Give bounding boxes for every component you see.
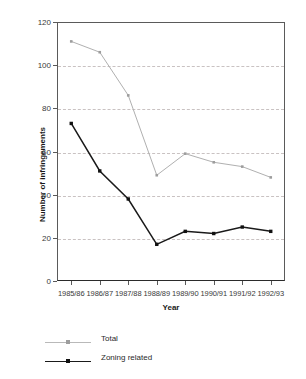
x-axis-tick-mark <box>128 281 129 285</box>
x-axis-tick-label: 1992/93 <box>258 289 284 298</box>
legend-swatch-zoning-related <box>45 358 91 366</box>
chart-legend: Total Zoning related <box>45 332 245 370</box>
line-chart-figure: 020406080100120 1985/861986/871987/88198… <box>0 0 306 379</box>
x-axis-tick-label: 1990/91 <box>201 289 227 298</box>
x-axis-tick-label: 1991/92 <box>229 289 255 298</box>
x-axis-tick-mark <box>157 281 158 285</box>
x-axis-tick-mark <box>71 281 72 285</box>
x-axis-tick-label: 1985/86 <box>58 289 84 298</box>
legend-item-total: Total <box>45 332 245 351</box>
x-axis-tick-mark <box>100 281 101 285</box>
x-axis-tick-label: 1988/89 <box>144 289 170 298</box>
legend-label-zoning-related: Zoning related <box>101 353 152 362</box>
x-axis-tick-mark <box>271 281 272 285</box>
legend-label-total: Total <box>101 334 118 343</box>
y-axis-title: Number of infringements <box>38 95 47 255</box>
y-axis-title-holder: Number of infringements <box>22 70 32 230</box>
legend-marker-zoning-related <box>66 359 70 363</box>
legend-marker-total <box>66 340 70 344</box>
legend-item-zoning-related: Zoning related <box>45 351 245 370</box>
x-axis-tick-label: 1989/90 <box>172 289 198 298</box>
x-axis-tick-label: 1987/88 <box>115 289 141 298</box>
x-axis-tick-mark <box>214 281 215 285</box>
x-axis-title: Year <box>57 303 285 312</box>
x-axis-tick-mark <box>242 281 243 285</box>
legend-swatch-total <box>45 339 91 347</box>
x-axis-tick-label: 1986/87 <box>87 289 113 298</box>
x-axis-tick-mark <box>185 281 186 285</box>
